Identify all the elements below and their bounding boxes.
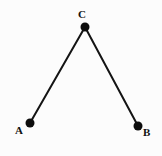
vertex-label-b: B <box>143 127 150 138</box>
vertex-label-c: C <box>78 9 86 20</box>
geometry-figure: A B C <box>0 0 162 156</box>
figure-canvas <box>0 0 162 156</box>
figure-background <box>0 0 162 156</box>
vertex-dot-c <box>81 23 90 32</box>
vertex-dot-a <box>26 119 35 128</box>
vertex-dot-b <box>134 122 143 131</box>
vertex-label-a: A <box>15 125 23 136</box>
